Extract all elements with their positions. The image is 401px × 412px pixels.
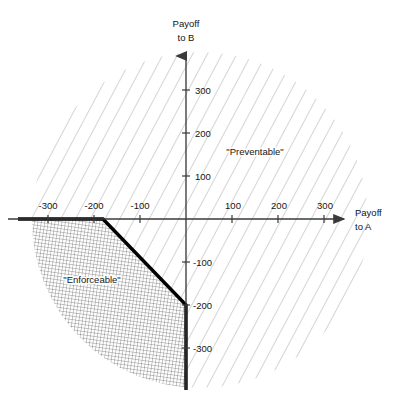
x-tick-label-100: 100 <box>225 200 241 211</box>
x-tick-label-300: 300 <box>317 200 333 211</box>
y-tick-label-200: 200 <box>195 128 211 139</box>
y-axis-title-line1: Payoff <box>173 18 200 29</box>
x-tick-label--300: -300 <box>38 200 57 211</box>
y-tick-label-100: 100 <box>195 171 211 182</box>
y-tick-label--200: -200 <box>193 300 212 311</box>
enforceable-label: "Enforceable" <box>63 274 120 285</box>
x-tick-label--200: -200 <box>84 200 103 211</box>
x-tick-label-200: 200 <box>271 200 287 211</box>
preventable-label: "Preventable" <box>226 146 283 157</box>
x-tick-label--100: -100 <box>130 200 149 211</box>
y-axis-title-line2: to B <box>178 32 195 43</box>
y-tick-label--100: -100 <box>193 257 212 268</box>
x-axis-title-line2: to A <box>355 221 372 232</box>
payoff-diagram: -300 -200 -100 100 200 300 300 200 100 -… <box>0 0 401 412</box>
y-tick-label-300: 300 <box>195 85 211 96</box>
y-tick-label--300: -300 <box>193 343 212 354</box>
x-axis-title-line1: Payoff <box>355 207 382 218</box>
